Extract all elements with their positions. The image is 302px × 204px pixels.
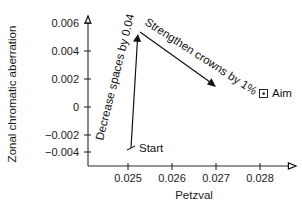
- x-axis-title: Petzval: [175, 189, 213, 201]
- annotation-strengthen-crowns: Strengthen crowns by 1%: [143, 16, 259, 97]
- decrease-spaces-arrowhead-icon: [133, 34, 141, 42]
- square-dot-marker-center-icon: [263, 93, 265, 95]
- legend-label-aim: Aim: [272, 87, 292, 99]
- x-axis-arrowhead-icon: [288, 163, 296, 169]
- x-tick-label: 0.028: [246, 172, 274, 184]
- legend-entry-aim: Aim: [260, 87, 292, 99]
- strengthen-crowns-arrowhead-icon: [207, 78, 216, 87]
- y-tick-label: −0.002: [45, 129, 79, 141]
- y-axis-title: Zonal chromatic aberration: [6, 26, 18, 163]
- y-tick-label: −0.004: [45, 146, 79, 158]
- chart-figure: 0.006 0.004 0.002 0 −0.002 −0.004 0.025 …: [0, 0, 302, 204]
- decrease-spaces-arrow-shaft: [131, 41, 137, 148]
- annotation-decrease-spaces: Decrease spaces by 0.04: [93, 12, 136, 141]
- y-tick-label: 0.002: [51, 73, 79, 85]
- y-tick-label: 0.004: [51, 45, 79, 57]
- x-tick-label: 0.027: [202, 172, 230, 184]
- chart-legend: Aim: [260, 87, 292, 99]
- y-tick-label: 0.006: [51, 17, 79, 29]
- y-tick-label: 0: [73, 101, 79, 113]
- start-point-label: Start: [139, 142, 164, 154]
- x-tick-label: 0.025: [114, 172, 142, 184]
- x-tick-label: 0.026: [158, 172, 186, 184]
- chart-plot-area: 0.006 0.004 0.002 0 −0.002 −0.004 0.025 …: [0, 0, 302, 204]
